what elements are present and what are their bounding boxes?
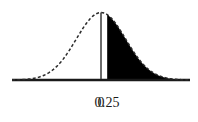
x-tick-label-cutoff: 0.25 [6,96,198,110]
shaded-tail-region [107,15,190,80]
normal-distribution-figure: 0 0.25 [0,0,198,122]
